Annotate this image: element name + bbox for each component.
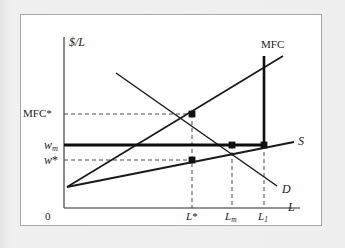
y-tick-mfc-star-text: MFC <box>23 107 46 119</box>
supply-curve <box>67 142 294 187</box>
y-tick-w-star: w* <box>44 154 58 166</box>
y-tick-w-m-text: w <box>44 138 52 152</box>
curve-label-demand: D <box>282 183 291 195</box>
curve-label-supply: S <box>298 135 304 147</box>
x-tick-l-star: L* <box>186 211 198 222</box>
x-tick-l-1: L1 <box>258 211 268 223</box>
point-l-1 <box>261 142 268 149</box>
y-tick-w-m: wm <box>44 139 58 153</box>
x-tick-l-1-subscript: 1 <box>264 215 268 224</box>
y-tick-w-star-text: w <box>44 153 52 167</box>
point-mfc-star <box>189 111 196 118</box>
x-axis-label: L <box>288 201 295 213</box>
curve-label-mfc: MFC <box>261 39 284 50</box>
y-tick-mfc-star-mark: * <box>46 107 52 119</box>
y-tick-mfc-star: MFC* <box>23 108 52 119</box>
x-tick-l-m: Lm <box>225 211 237 223</box>
x-tick-l-m-subscript: m <box>231 215 236 224</box>
x-tick-l-star-mark: * <box>192 210 198 222</box>
figure-panel: $/L L 0 MFC* wm w* L* Lm L1 MFC S D <box>20 14 322 226</box>
point-w-star <box>189 157 196 164</box>
y-tick-w-star-mark: * <box>52 153 58 167</box>
page-background: $/L L 0 MFC* wm w* L* Lm L1 MFC S D <box>0 0 345 248</box>
y-axis-label: $/L <box>69 36 85 48</box>
y-tick-w-m-subscript: m <box>52 144 58 153</box>
origin-label: 0 <box>45 211 51 222</box>
demand-curve <box>116 73 277 186</box>
point-l-m <box>229 142 236 149</box>
